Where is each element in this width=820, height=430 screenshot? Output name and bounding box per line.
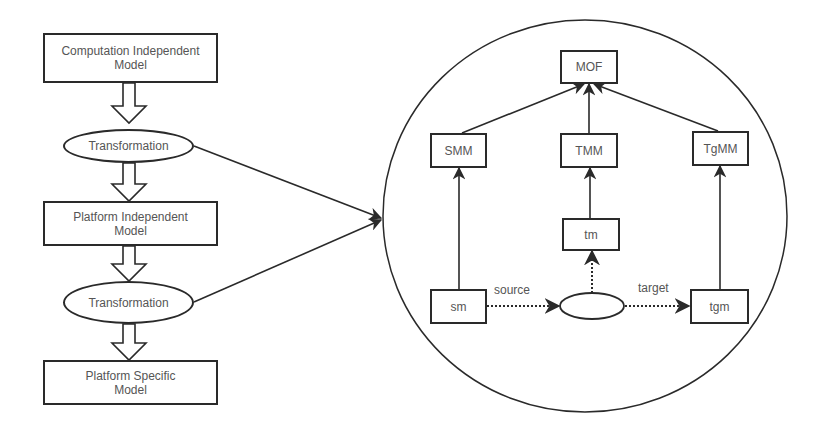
- tgmm-label: TgMM: [704, 142, 738, 156]
- cim-box: Computation Independent Model: [43, 33, 218, 83]
- tgmm-box: TgMM: [692, 131, 749, 166]
- arrow-t2-to-detail: [194, 220, 381, 302]
- tmm-box: TMM: [560, 133, 618, 168]
- tgm-box: tgm: [690, 289, 749, 324]
- transformation-ellipse-2: Transformation: [63, 281, 194, 324]
- block-arrow-t1-pim: [112, 163, 146, 201]
- mof-label: MOF: [576, 60, 603, 74]
- sm-label: sm: [451, 300, 467, 314]
- sm-box: sm: [430, 289, 487, 324]
- psm-label-line2: Model: [114, 383, 147, 397]
- block-arrow-t2-psm: [112, 324, 146, 360]
- transformation-label-1: Transformation: [88, 139, 168, 153]
- tgm-label: tgm: [709, 300, 729, 314]
- transformation-label-2: Transformation: [88, 296, 168, 310]
- transformation-ellipse-detail: [560, 293, 624, 319]
- arrow-smm-mof: [462, 84, 584, 133]
- target-edge-label: target: [638, 281, 669, 295]
- pim-label-line1: Platform Independent: [73, 210, 188, 224]
- arrow-t1-to-detail: [194, 146, 381, 218]
- psm-label-line1: Platform Specific: [85, 369, 175, 383]
- source-edge-label: source: [494, 283, 530, 297]
- mof-box: MOF: [560, 50, 618, 84]
- psm-box: Platform Specific Model: [43, 360, 218, 405]
- pim-box: Platform Independent Model: [43, 201, 218, 246]
- cim-label-line1: Computation Independent: [61, 44, 199, 58]
- block-arrow-cim-t1: [112, 83, 146, 123]
- cim-label-line2: Model: [114, 58, 147, 72]
- block-arrow-pim-t2: [112, 246, 146, 281]
- transformation-ellipse-1: Transformation: [63, 129, 194, 163]
- tmm-label: TMM: [575, 144, 602, 158]
- pim-label-line2: Model: [114, 224, 147, 238]
- tm-label: tm: [584, 228, 597, 242]
- arrow-tgmm-mof: [594, 84, 718, 131]
- smm-label: SMM: [445, 144, 473, 158]
- tm-box: tm: [562, 218, 620, 251]
- smm-box: SMM: [430, 133, 487, 168]
